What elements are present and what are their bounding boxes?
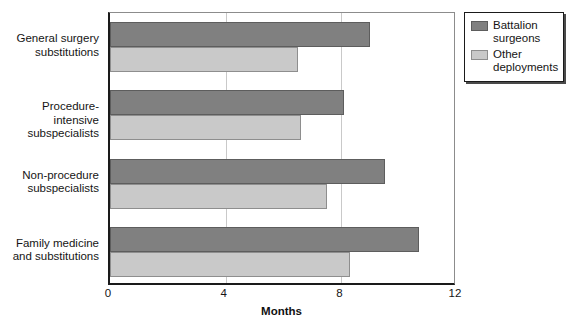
legend-swatch-icon-other-deployments: [471, 50, 488, 60]
x-tick-label: 0: [105, 287, 111, 299]
legend-item-other-deployments: Other deployments: [471, 48, 558, 74]
x-tick-label: 4: [220, 287, 226, 299]
x-tick-label: 12: [449, 287, 462, 299]
bar: [110, 227, 419, 252]
bar: [110, 90, 344, 115]
category-axis-labels: General surgery substitutions Procedure-…: [0, 12, 103, 285]
bar: [110, 159, 385, 184]
legend-swatch-icon-battalion-surgeons: [471, 21, 488, 31]
category-label-general-surgery: General surgery substitutions: [0, 32, 99, 59]
bar: [110, 115, 301, 140]
legend-item-battalion-surgeons: Battalion surgeons: [471, 19, 558, 45]
legend-label-battalion-surgeons: Battalion surgeons: [493, 19, 540, 45]
plot-area: [108, 12, 455, 285]
bar: [110, 252, 350, 277]
x-axis-title: Months: [108, 305, 455, 317]
category-label-family-medicine: Family medicine and substitutions: [0, 237, 99, 264]
x-axis-tick-labels: 04812: [108, 287, 455, 303]
category-label-procedure-intensive: Procedure-intensive subspecialists: [0, 100, 99, 141]
category-label-non-procedure: Non-procedure subspecialists: [0, 169, 99, 196]
bar-chart-figure: General surgery substitutions Procedure-…: [0, 0, 571, 325]
x-tick-label: 8: [336, 287, 342, 299]
legend: Battalion surgeons Other deployments: [464, 12, 564, 82]
bar: [110, 22, 370, 47]
bar: [110, 47, 298, 72]
legend-label-other-deployments: Other deployments: [493, 48, 558, 74]
bar: [110, 184, 327, 209]
